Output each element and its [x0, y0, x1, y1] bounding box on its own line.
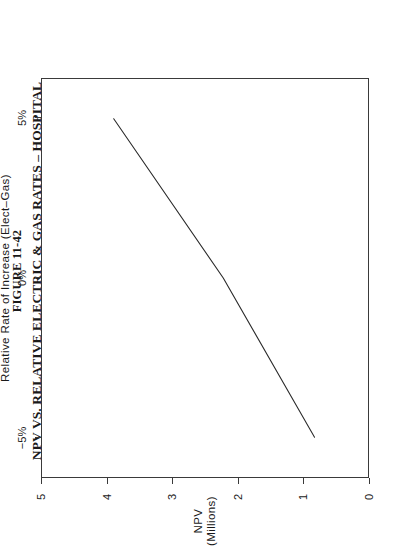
- chart-line-svg: [42, 79, 368, 477]
- y-tick-label: 5: [35, 494, 47, 500]
- y-tick-label: 1: [297, 494, 309, 500]
- x-axis-title: Relative Rate of Increase (Elect–Gas): [0, 174, 11, 382]
- y-tick-mark: [303, 478, 304, 484]
- npv-data-line: [114, 119, 315, 437]
- y-tick-label: 3: [166, 494, 178, 500]
- y-tick-mark: [41, 478, 42, 484]
- y-tick-label: 4: [101, 494, 113, 500]
- y-tick-label: 2: [232, 494, 244, 500]
- x-tick-label: −5%: [16, 427, 28, 449]
- y-tick-mark: [238, 478, 239, 484]
- y-axis-title-line2: (Millions): [205, 486, 218, 550]
- y-tick-mark: [172, 478, 173, 484]
- y-tick-label: 0: [363, 494, 375, 500]
- x-tick-mark: [35, 117, 41, 118]
- y-tick-mark: [369, 478, 370, 484]
- y-axis-title: NPV (Millions): [192, 486, 218, 550]
- x-tick-mark: [35, 437, 41, 438]
- x-tick-mark: [35, 277, 41, 278]
- plot-area: [41, 78, 369, 478]
- x-tick-label: 5%: [16, 110, 28, 126]
- y-tick-mark: [107, 478, 108, 484]
- y-axis-title-line1: NPV: [192, 486, 205, 550]
- x-tick-label: 0%: [16, 270, 28, 286]
